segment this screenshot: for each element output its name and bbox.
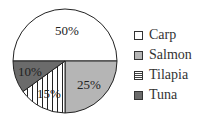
legend-label: Tuna xyxy=(149,88,177,102)
legend-label: Carp xyxy=(149,28,176,42)
legend-label: Salmon xyxy=(149,48,192,62)
label-salmon: 25% xyxy=(77,77,101,92)
legend: Carp Salmon Tilapia Tuna xyxy=(134,25,192,105)
legend-item-salmon: Salmon xyxy=(134,45,192,65)
legend-item-tilapia: Tilapia xyxy=(134,65,192,85)
legend-item-carp: Carp xyxy=(134,25,192,45)
swatch-tuna-icon xyxy=(134,91,143,100)
label-tilapia: 15% xyxy=(37,86,61,101)
swatch-tilapia-icon xyxy=(134,71,143,80)
label-tuna: 10% xyxy=(18,64,42,79)
legend-item-tuna: Tuna xyxy=(134,85,192,105)
pie-chart: 50% 25% 15% 10% xyxy=(0,0,130,120)
swatch-salmon-icon xyxy=(134,51,143,60)
legend-label: Tilapia xyxy=(149,68,188,82)
label-carp: 50% xyxy=(55,23,79,38)
swatch-carp-icon xyxy=(134,31,143,40)
